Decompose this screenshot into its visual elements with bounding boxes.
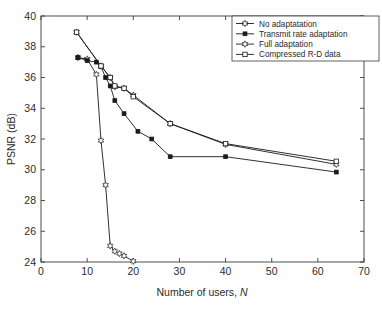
data-point-marker: [113, 99, 117, 103]
x-axis-title: Number of users, N: [156, 286, 247, 298]
data-point-marker: [334, 159, 338, 163]
data-point-marker: [150, 137, 154, 141]
legend-label: Transmit rate adaptation: [259, 30, 348, 39]
data-point-marker: [85, 59, 89, 63]
y-axis-tick-labels: 242628303234363840: [24, 10, 36, 268]
legend-label: No adaptatation: [259, 20, 317, 29]
x-tick-label: 30: [174, 265, 186, 277]
x-tick-label: 40: [220, 265, 232, 277]
y-tick-label: 26: [24, 225, 36, 237]
y-tick-label: 34: [24, 102, 36, 114]
y-tick-label: 38: [24, 40, 36, 52]
x-tick-label: 70: [358, 265, 370, 277]
chart-legend: No adaptatationTransmit rate adaptationF…: [232, 16, 379, 61]
data-point-marker: [136, 129, 140, 133]
x-tick-label: 60: [312, 265, 324, 277]
psnr-vs-users-line-chart: 010203040506070 242628303234363840 No ad…: [0, 0, 382, 310]
y-tick-label: 24: [24, 256, 36, 268]
data-point-marker: [223, 141, 227, 145]
y-tick-label: 28: [24, 194, 36, 206]
data-point-marker: [168, 155, 172, 159]
data-point-marker: [113, 84, 117, 88]
data-point-marker: [99, 64, 103, 68]
x-tick-label: 50: [266, 265, 278, 277]
data-point-marker: [131, 95, 135, 99]
legend-label: Full adaptation: [259, 40, 313, 49]
legend-marker: [243, 52, 247, 56]
x-tick-label: 20: [127, 265, 139, 277]
legend-label: Compressed R-D data: [259, 50, 341, 59]
data-point-marker: [122, 86, 126, 90]
data-point-marker: [122, 112, 126, 116]
data-point-marker: [108, 75, 112, 79]
data-point-marker: [168, 121, 172, 125]
y-tick-label: 32: [24, 133, 36, 145]
y-tick-label: 40: [24, 10, 36, 22]
data-point-marker: [104, 76, 108, 80]
data-point-marker: [76, 56, 80, 60]
y-axis-title: PSNR (dB): [5, 113, 17, 165]
x-tick-label: 0: [38, 265, 44, 277]
figure-container: 010203040506070 242628303234363840 No ad…: [0, 0, 382, 310]
y-tick-label: 30: [24, 163, 36, 175]
y-tick-label: 36: [24, 71, 36, 83]
data-point-marker: [224, 155, 228, 159]
data-point-marker: [74, 30, 78, 34]
data-point-marker: [334, 170, 338, 174]
x-tick-label: 10: [81, 265, 93, 277]
legend-marker: [243, 32, 247, 36]
data-point-marker: [108, 84, 112, 88]
